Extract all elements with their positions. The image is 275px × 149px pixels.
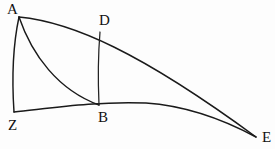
inner-arc-A-to-B	[19, 17, 99, 105]
vertex-label-z: Z	[8, 118, 17, 133]
vertex-label-d: D	[99, 13, 110, 28]
vertex-label-b: B	[98, 110, 108, 125]
lower-arc-Z-to-E	[14, 103, 256, 137]
segment-D-to-B	[98, 32, 100, 105]
left-arc-A-to-Z	[13, 17, 19, 112]
vertex-label-a: A	[7, 2, 18, 17]
geometry-figure-canvas: A D B Z E	[0, 0, 275, 149]
vertex-label-e: E	[262, 130, 271, 145]
figure-drawing	[0, 0, 275, 149]
